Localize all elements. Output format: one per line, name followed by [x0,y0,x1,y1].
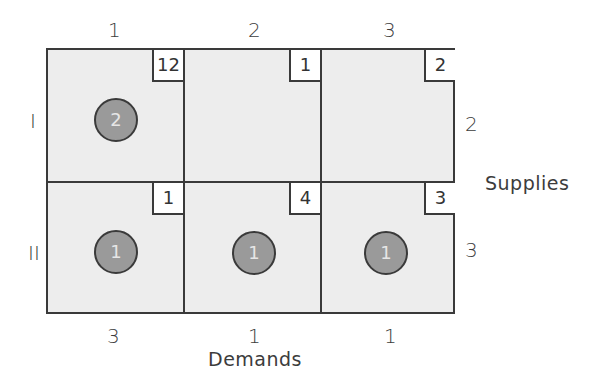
cost-box-II-1: 1 [152,183,183,215]
cost-box-II-3: 3 [424,183,455,215]
cost-box-II-2: 4 [289,183,320,215]
column-header-2: 2 [248,20,261,40]
supply-value-II: 3 [465,240,478,260]
demand-value-2: 1 [248,326,261,346]
cost-box-I-3: 2 [424,50,455,82]
supplies-label: Supplies [485,172,569,194]
column-header-1: 1 [108,20,121,40]
cost-box-I-2: 1 [289,50,320,82]
transportation-grid: 12 1 2 2 1 4 3 1 1 1 [46,48,455,314]
row-header-I: I [30,111,36,131]
demands-label: Demands [208,348,302,370]
row-header-II: II [28,243,40,263]
demand-value-3: 1 [384,326,397,346]
allocation-circle-II-1: 1 [94,230,138,274]
column-header-3: 3 [383,20,396,40]
cost-box-I-1: 12 [152,50,183,82]
allocation-circle-I-1: 2 [94,98,138,142]
allocation-circle-II-3: 1 [364,231,408,275]
supply-value-I: 2 [465,114,478,134]
allocation-circle-II-2: 1 [232,231,276,275]
demand-value-1: 3 [107,326,120,346]
row-divider [48,181,453,183]
